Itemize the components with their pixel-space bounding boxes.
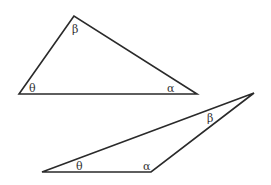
triangle-1-beta-label: β <box>72 23 78 36</box>
triangle-1-theta-label: θ <box>29 82 36 95</box>
triangle-2-theta-label: θ <box>76 160 83 173</box>
triangle-1-alpha-label: α <box>167 82 175 95</box>
diagram-canvas: β θ α β θ α <box>0 0 271 185</box>
triangles-svg: β θ α β θ α <box>0 0 271 185</box>
triangle-2-alpha-label: α <box>143 160 151 173</box>
triangle-2-beta-label: β <box>207 112 213 125</box>
